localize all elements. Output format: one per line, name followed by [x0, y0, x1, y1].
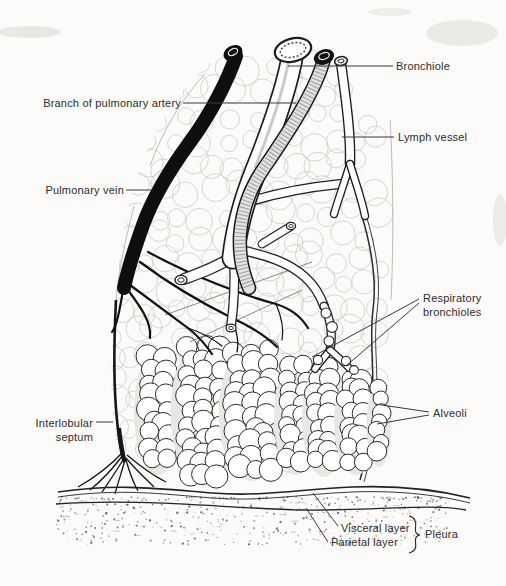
label-respiratory-bronchioles: Respiratory bronchioles [423, 291, 495, 319]
pleura-brace [409, 516, 420, 553]
label-visceral-layer: Visceral layer [341, 521, 410, 535]
airway-branches [175, 184, 340, 332]
alveoli-clusters [134, 336, 392, 489]
label-parietal-layer: Parietal layer [331, 535, 398, 549]
label-alveoli: Alveoli [433, 406, 467, 420]
label-pleura: Pleura [425, 527, 458, 541]
label-branch-pulmonary-artery: Branch of pulmonary artery [42, 96, 181, 110]
figure-lung-lobule: Bronchiole Branch of pulmonary artery Ly… [0, 0, 506, 586]
label-interlobular-septum: Interlobular septum [13, 416, 93, 444]
lymph-vessel-tube [334, 56, 365, 216]
label-pulmonary-vein: Pulmonary vein [42, 183, 124, 197]
leader-respiratory-bronchiole-2 [346, 303, 419, 366]
label-bronchiole: Bronchiole [396, 59, 450, 73]
label-lymph-vessel: Lymph vessel [398, 130, 467, 144]
